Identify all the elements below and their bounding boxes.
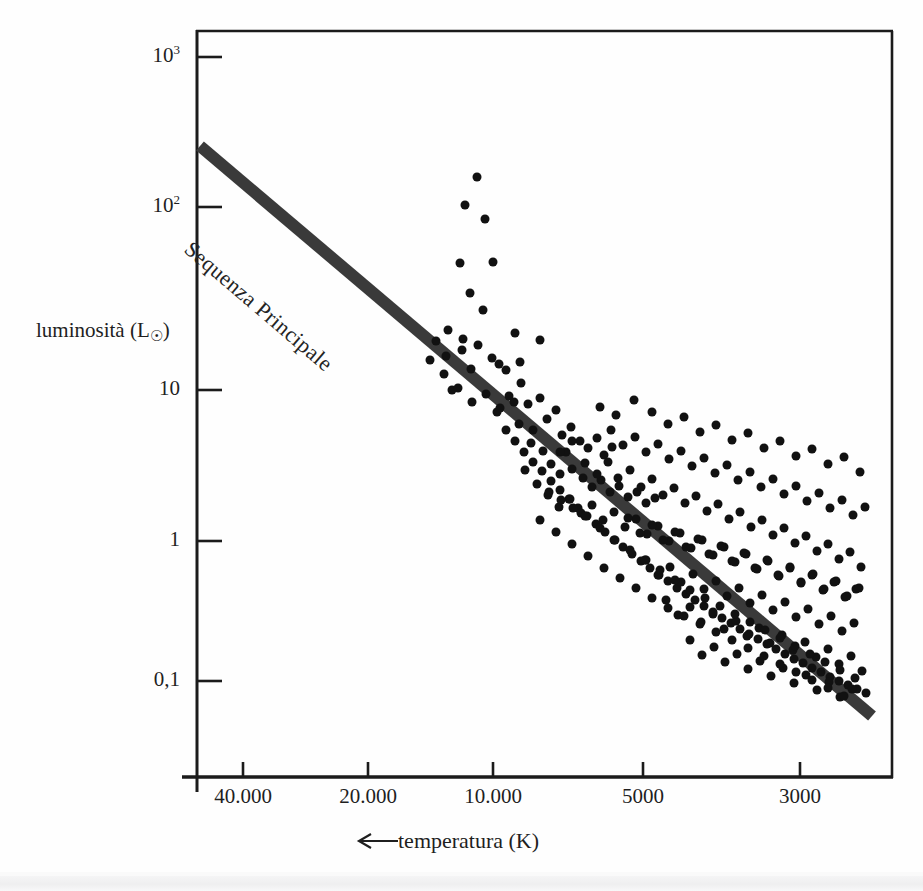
scatter-point [604,458,613,467]
scatter-point [838,496,847,505]
scatter-point [637,483,646,492]
scatter-point [723,592,732,601]
scatter-point [682,543,691,552]
scatter-point [610,508,619,517]
scatter-point [769,475,778,484]
scatter-point [712,628,721,637]
scatter-point [763,556,772,565]
scatter-point [593,434,602,443]
scatter-point [536,516,545,525]
scatter-point [780,524,789,533]
scatter-point [511,329,520,338]
scatter-point [840,453,849,462]
scatter-point [848,685,857,694]
scatter-point [584,552,593,561]
scatter-point [474,341,483,350]
scatter-point [709,610,718,619]
scatter-point [626,546,635,555]
scatter-point [744,644,753,653]
scatter-point [666,563,675,572]
scatter-point [442,352,451,361]
scatter-point [855,584,864,593]
scatter-point [824,540,833,549]
scatter-point [642,448,651,457]
scatter-point [808,676,817,685]
hr-diagram-figure: luminosità (L☉) 103 102 10 1 0,1 40.000 … [0,0,923,891]
scatter-point [751,564,760,573]
scatter-point [862,689,871,698]
scatter-point [689,570,698,579]
scatter-point [593,470,602,479]
scatter-point [626,466,635,475]
scatter-point [524,400,533,409]
scatter-point [440,370,449,379]
scatter-point [496,404,505,413]
scatter-point [552,528,561,537]
scatter-point [588,501,597,510]
scatter-point [757,483,766,492]
scatter-point [797,578,806,587]
scatter-point [728,636,737,645]
scatter-point [630,396,639,405]
scatter-point [743,632,752,641]
scatter-point [744,665,753,674]
scatter-point [792,668,801,677]
scatter-point [769,606,778,615]
scatter-point [664,604,673,613]
scatter-point [456,259,465,268]
scatter-point [717,542,726,551]
y-axis-title-close: ) [163,318,170,342]
scatter-point [466,289,475,298]
scatter-point [489,258,498,267]
scatter-point [723,461,732,470]
scatter-point [861,503,870,512]
scatter-point [760,652,769,661]
scatter-point [479,306,488,315]
scatter-point [746,468,755,477]
scatter-point [608,443,617,452]
scatter-point [642,499,651,508]
scatter-point [659,536,668,545]
scatter-point [545,488,554,497]
scatter-point [481,215,490,224]
x-tick-label-10000: 10.000 [433,784,553,809]
scatter-point [520,448,529,457]
scatter-point [576,437,585,446]
scatter-point [671,528,680,537]
scatter-point [579,474,588,483]
scatter-point [686,603,695,612]
scatter-point [838,627,847,636]
scatter-point [843,592,852,601]
scatter-point [776,437,785,446]
scatter-point [721,658,730,667]
scatter-point [600,564,609,573]
scatter-point [468,398,477,407]
scatter-point [791,539,800,548]
y-tick-label-1: 1 [100,527,180,552]
scatter-point [556,486,565,495]
scatter-point [536,394,545,403]
scatter-point [688,462,697,471]
scatter-point [515,420,524,429]
scatter-points-layer [426,173,871,702]
scatter-point [543,415,552,424]
scatter-point [701,594,710,603]
scatter-point [696,428,705,437]
scan-artifact-strip [0,876,923,891]
scatter-point [459,335,468,344]
scatter-point [847,652,856,661]
scatter-point [662,596,671,605]
scatter-point [836,666,845,675]
scatter-point [648,521,657,530]
scatter-point [740,549,749,558]
scatter-point [716,602,725,611]
scatter-point [615,482,624,491]
scatter-point [827,612,836,621]
scatter-point [835,555,844,564]
scatter-point [786,563,795,572]
scatter-point [754,635,763,644]
scatter-point [568,540,577,549]
scatter-point [584,444,593,453]
scatter-point [659,491,668,500]
y-tick-label-1000: 103 [100,43,180,68]
